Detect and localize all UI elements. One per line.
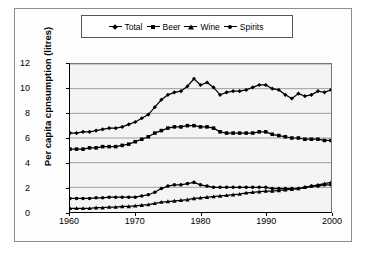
chart-frame: Total Beer Wine Spirits Per capita cpnsu… [14,8,352,242]
data-point-marker [231,186,235,190]
data-point-marker [310,184,314,188]
data-point-marker [94,196,98,200]
data-point-marker [264,186,268,190]
data-point-marker [225,90,229,94]
data-point-marker [284,135,288,139]
data-point-marker [88,146,92,150]
triangle-marker-icon [188,25,194,30]
legend-line-total [109,26,122,27]
data-point-marker [297,136,301,140]
data-point-marker [173,125,177,129]
legend-item-wine: Wine [184,22,221,32]
data-point-marker [323,183,327,187]
data-point-marker [81,197,85,201]
data-point-marker [284,187,288,191]
data-point-marker [107,126,111,130]
data-point-marker [153,131,157,135]
data-point-marker [218,186,222,190]
data-point-marker [231,89,235,93]
data-point-marker [238,89,242,93]
y-axis-tick [66,188,69,189]
x-axis-tick-label: 2000 [312,216,352,226]
data-point-marker [257,130,261,134]
data-point-marker [244,186,248,190]
data-point-marker [153,190,157,194]
data-point-marker [147,193,151,197]
y-axis-tick [66,63,69,64]
data-point-marker [218,130,222,134]
y-axis-tick-label: 6 [8,133,30,143]
legend-label-total: Total [122,22,145,32]
legend-line-beer [147,26,160,27]
data-point-marker [70,147,72,151]
data-point-marker [303,186,307,190]
y-axis-tick-label: 12 [8,58,30,68]
data-point-marker [120,144,124,148]
y-axis-tick-label: 4 [8,158,30,168]
y-axis-tick-label: 8 [8,108,30,118]
y-axis-tick [66,163,69,164]
x-axis-tick-label: 1960 [49,216,89,226]
data-point-marker [74,131,78,135]
data-point-marker [172,90,176,94]
legend-label-spirits: Spirits [237,22,266,32]
data-point-marker [120,125,124,129]
legend-item-spirits: Spirits [224,22,266,32]
circle-marker-icon [228,25,232,29]
data-point-marker [297,187,301,191]
x-axis-tick-label: 1980 [181,216,221,226]
legend-item-beer: Beer [147,22,183,32]
data-point-marker [257,83,261,87]
y-axis-tick [66,113,69,114]
data-point-marker [322,90,326,94]
data-point-marker [186,182,190,186]
y-axis-tick [66,138,69,139]
data-point-marker [70,197,72,201]
legend-line-spirits [224,26,237,27]
data-point-marker [133,195,137,199]
data-point-marker [329,139,331,143]
y-axis-tick-label: 2 [8,183,30,193]
plot-area [69,63,332,213]
data-point-marker [120,195,124,199]
data-point-marker [94,129,98,133]
data-point-marker [323,139,327,143]
data-point-marker [127,122,131,126]
data-point-marker [75,197,79,201]
y-axis-tick-label: 0 [8,208,30,218]
data-point-marker [173,183,177,187]
data-point-marker [140,137,144,141]
data-point-marker [192,124,196,128]
data-point-marker [277,134,281,138]
data-point-marker [101,196,105,200]
data-point-marker [225,186,229,190]
data-point-marker [290,187,294,191]
legend-label-beer: Beer [160,22,183,32]
data-point-marker [192,181,196,185]
y-axis-title: Per capita cpnsumption (litres) [42,23,53,171]
diamond-marker-icon [112,24,118,30]
y-axis-tick [66,88,69,89]
data-point-marker [70,131,72,135]
data-point-marker [107,195,111,199]
square-marker-icon [151,25,155,29]
data-point-marker [133,140,137,144]
data-point-marker [290,136,294,140]
data-point-marker [75,147,79,151]
legend-label-wine: Wine [197,22,221,32]
data-point-marker [107,145,111,149]
y-axis-tick-label: 10 [8,83,30,93]
x-axis-tick [69,213,70,216]
data-point-marker [114,126,118,130]
data-point-marker [212,126,216,130]
data-point-marker [127,142,131,146]
data-point-marker [316,137,320,141]
data-point-marker [303,94,307,98]
data-point-marker [225,131,229,135]
data-point-marker [205,184,209,188]
data-point-marker [179,183,183,187]
data-point-marker [114,195,118,199]
data-point-marker [316,184,320,188]
data-point-marker [114,145,118,149]
data-point-marker [277,187,281,191]
